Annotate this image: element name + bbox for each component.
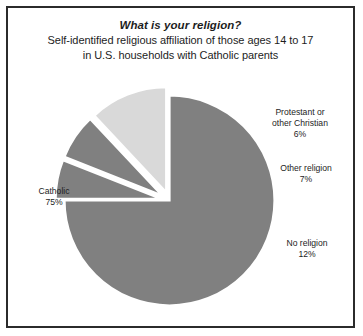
chart-frame: What is your religion? Self-identified r… bbox=[6, 6, 355, 328]
pie-label-protestant-name-line-1: Protestant or bbox=[252, 107, 348, 118]
pie-label-no-religion-name: No religion bbox=[266, 238, 348, 249]
pie-label-catholic: Catholic 75% bbox=[22, 186, 86, 208]
pie-label-no-religion-value: 12% bbox=[266, 249, 348, 260]
pie-label-other-religion: Other religion 7% bbox=[264, 163, 348, 185]
pie-label-other-religion-value: 7% bbox=[264, 174, 348, 185]
pie-label-protestant-value: 6% bbox=[252, 129, 348, 140]
pie-label-no-religion: No religion 12% bbox=[266, 238, 348, 260]
chart-inner: What is your religion? Self-identified r… bbox=[8, 8, 353, 326]
pie-label-catholic-name: Catholic bbox=[22, 186, 86, 197]
pie-label-other-religion-name: Other religion bbox=[264, 163, 348, 174]
pie-label-protestant-name-line-2: other Christian bbox=[252, 118, 348, 129]
pie-label-catholic-value: 75% bbox=[22, 197, 86, 208]
pie-label-protestant: Protestant or other Christian 6% bbox=[252, 107, 348, 140]
